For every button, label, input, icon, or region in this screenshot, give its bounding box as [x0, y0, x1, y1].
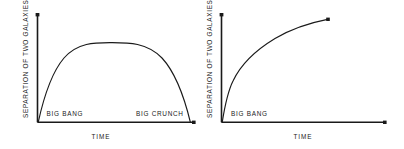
- panel-closed-universe: BIG BANG BIG CRUNCH SEPARATION OF TWO GA…: [22, 0, 195, 140]
- x-axis-end-cap-panel2: [383, 121, 387, 124]
- annotation-big-bang-panel1: BIG BANG: [47, 110, 84, 117]
- curve-endpoint-marker-panel2: [326, 18, 330, 21]
- curve-open-universe: [222, 19, 327, 122]
- x-axis-end-cap-panel1: [192, 121, 196, 124]
- figure-canvas: BIG BANG BIG CRUNCH SEPARATION OF TWO GA…: [0, 0, 404, 149]
- panel-open-universe: BIG BANG SEPARATION OF TWO GALAXIES TIME: [206, 0, 386, 140]
- annotation-big-crunch-panel1: BIG CRUNCH: [136, 110, 184, 117]
- y-axis-label-panel1: SEPARATION OF TWO GALAXIES: [22, 0, 29, 118]
- x-axis-label-panel2: TIME: [294, 133, 313, 140]
- y-axis-top-cap-panel1: [36, 13, 40, 16]
- y-axis-label-panel2: SEPARATION OF TWO GALAXIES: [206, 0, 213, 118]
- cosmology-figure: BIG BANG BIG CRUNCH SEPARATION OF TWO GA…: [0, 0, 404, 149]
- x-axis-label-panel1: TIME: [92, 133, 111, 140]
- y-axis-top-cap-panel2: [220, 13, 224, 16]
- annotation-big-bang-panel2: BIG BANG: [231, 110, 268, 117]
